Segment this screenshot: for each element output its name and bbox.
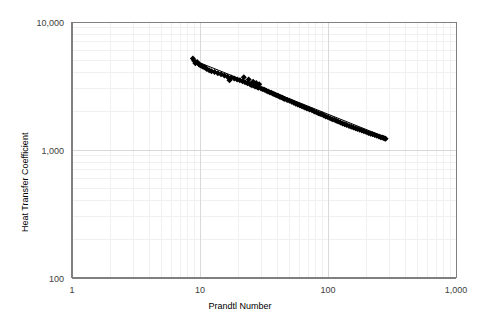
chart-plot-svg bbox=[0, 0, 480, 324]
x-axis-tick-1: 1 bbox=[42, 285, 102, 295]
x-axis-title: Prandtl Number bbox=[0, 301, 480, 311]
y-axis-tick-100: 100 bbox=[8, 274, 64, 284]
x-axis-tick-100: 100 bbox=[298, 285, 358, 295]
chart-container: 10,000 1,000 100 1 10 100 1,000 Heat Tra… bbox=[0, 0, 480, 324]
y-axis-tick-10000: 10,000 bbox=[8, 18, 64, 28]
x-axis-tick-10: 10 bbox=[170, 285, 230, 295]
y-axis-tick-1000: 1,000 bbox=[8, 146, 64, 156]
x-axis-tick-1000: 1,000 bbox=[426, 285, 480, 295]
y-axis-title: Heat Transfer Coefficient bbox=[20, 133, 30, 232]
